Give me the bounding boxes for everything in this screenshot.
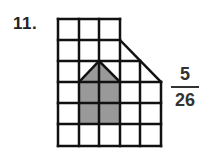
fraction-bar — [171, 86, 199, 88]
denominator: 26 — [170, 90, 200, 110]
numerator: 5 — [170, 64, 200, 84]
answer-fraction: 5 26 — [170, 64, 200, 110]
